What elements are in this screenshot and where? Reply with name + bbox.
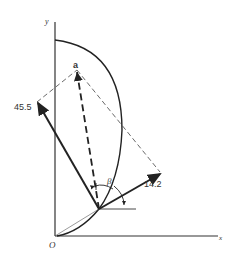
y-axis-label: y bbox=[44, 17, 49, 26]
origin-label: O bbox=[49, 240, 56, 250]
vector-45-5-arrow bbox=[38, 103, 99, 209]
point-a-label: a bbox=[73, 60, 79, 70]
beta-label: β bbox=[106, 176, 112, 186]
vector-45-5-label: 45.5 bbox=[14, 102, 32, 112]
vector-14-2-label: 14.2 bbox=[144, 179, 162, 189]
parallelogram-dashed-2 bbox=[77, 70, 160, 172]
parallelogram-dashed-1 bbox=[37, 70, 77, 102]
x-axis-label: x bbox=[218, 234, 223, 242]
chord-line bbox=[55, 209, 99, 236]
vector-diagram: y x O a 45.5 14.2 β bbox=[0, 0, 237, 254]
